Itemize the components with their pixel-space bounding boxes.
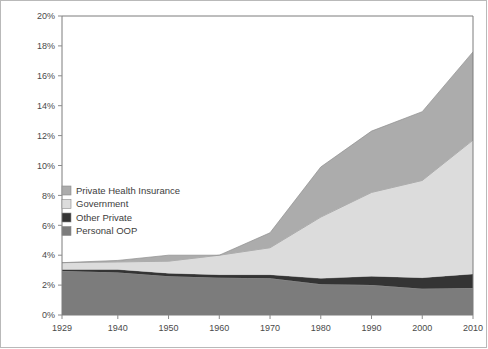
y-tick-label: 20% xyxy=(37,11,55,21)
y-tick-label: 2% xyxy=(42,280,55,290)
x-tick-label: 1970 xyxy=(260,323,280,333)
x-tick-label: 1940 xyxy=(108,323,128,333)
x-tick-label: 2000 xyxy=(412,323,432,333)
legend-swatch-personal-oop xyxy=(62,227,71,236)
legend-swatch-other-private xyxy=(62,213,71,222)
y-tick-label: 12% xyxy=(37,131,55,141)
legend-label-other-private: Other Private xyxy=(76,212,132,223)
stacked-area-chart: 0%2%4%6%8%10%12%14%16%18%20% 19291940195… xyxy=(0,0,488,349)
legend-label-personal-oop: Personal OOP xyxy=(76,225,137,236)
legend-swatch-private-health-insurance xyxy=(62,186,71,195)
x-tick-label: 1960 xyxy=(209,323,229,333)
y-tick-label: 4% xyxy=(42,250,55,260)
x-tick-label: 1980 xyxy=(311,323,331,333)
legend-label-government: Government xyxy=(76,198,129,209)
y-tick-label: 10% xyxy=(37,161,55,171)
y-axis-ticks: 0%2%4%6%8%10%12%14%16%18%20% xyxy=(37,11,62,320)
chart-figure: 0%2%4%6%8%10%12%14%16%18%20% 19291940195… xyxy=(0,0,488,349)
x-tick-label: 1929 xyxy=(52,323,72,333)
y-tick-label: 0% xyxy=(42,310,55,320)
legend-label-private-health-insurance: Private Health Insurance xyxy=(76,185,180,196)
x-tick-label: 1990 xyxy=(362,323,382,333)
y-tick-label: 8% xyxy=(42,191,55,201)
y-tick-label: 6% xyxy=(42,221,55,231)
y-tick-label: 16% xyxy=(37,71,55,81)
x-axis-ticks: 192919401950196019701980199020002010 xyxy=(52,315,483,333)
y-tick-label: 18% xyxy=(37,41,55,51)
legend-swatch-government xyxy=(62,200,71,209)
y-tick-label: 14% xyxy=(37,101,55,111)
x-tick-label: 2010 xyxy=(463,323,483,333)
x-tick-label: 1950 xyxy=(159,323,179,333)
